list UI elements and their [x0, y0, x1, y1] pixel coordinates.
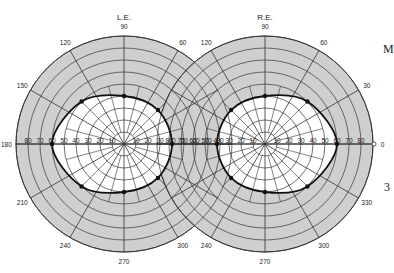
meridian-label: 90	[261, 23, 269, 30]
scale-label: 60	[48, 137, 56, 144]
scale-label: 30	[156, 137, 164, 144]
isopter-point	[229, 176, 233, 180]
scale-label: 80	[165, 137, 173, 144]
edge-text-fragment: 3	[384, 180, 390, 195]
scale-label: 20	[237, 137, 245, 144]
eye-label: R.E.	[257, 13, 273, 22]
isopter-point	[79, 184, 83, 188]
scale-label: 10	[249, 137, 257, 144]
meridian-label: 300	[318, 242, 329, 249]
isopter-point	[156, 176, 160, 180]
scale-label: 50	[321, 137, 329, 144]
isopter-point	[305, 99, 309, 103]
isopter-point	[122, 94, 126, 98]
zero-marker	[372, 142, 376, 146]
meridian-label: 30	[363, 82, 371, 89]
scale-label: 80	[357, 137, 365, 144]
edge-text-fragment: M	[383, 42, 394, 57]
scale-label: 30	[297, 137, 305, 144]
isopter-point	[229, 108, 233, 112]
meridian-label: 330	[361, 199, 372, 206]
scale-label: 30	[84, 137, 92, 144]
scale-label: 10	[273, 137, 281, 144]
meridian-label: 270	[119, 258, 130, 265]
scale-label: 20	[285, 137, 293, 144]
isopter-point	[156, 108, 160, 112]
meridian-label: 60	[320, 39, 328, 46]
scale-label: 10	[108, 137, 116, 144]
meridian-label: 300	[177, 242, 188, 249]
scale-label: 30	[225, 137, 233, 144]
scale-label: 50	[201, 137, 209, 144]
scale-label: 20	[96, 137, 104, 144]
scale-label: 60	[189, 137, 197, 144]
scale-label: 70	[36, 137, 44, 144]
isopter-point	[122, 190, 126, 194]
meridian-label: 120	[201, 39, 212, 46]
meridian-label: 0	[381, 141, 385, 148]
meridian-label: 120	[60, 39, 71, 46]
meridian-label: 240	[201, 242, 212, 249]
scale-label: 40	[309, 137, 317, 144]
eye-label: L.E.	[117, 13, 131, 22]
meridian-label: 180	[1, 141, 12, 148]
isopter-point	[305, 184, 309, 188]
meridian-label: 270	[260, 258, 271, 265]
meridian-label: 240	[60, 242, 71, 249]
scale-label: 70	[177, 137, 185, 144]
isopter-point	[263, 190, 267, 194]
scale-label: 40	[213, 137, 221, 144]
meridian-label: 210	[17, 199, 28, 206]
scale-label: 10	[132, 137, 140, 144]
scale-label: 70	[345, 137, 353, 144]
scale-label: 60	[333, 137, 341, 144]
scale-label: 80	[24, 137, 32, 144]
meridian-label: 90	[120, 23, 128, 30]
meridian-label: 150	[17, 82, 28, 89]
isopter-point	[79, 99, 83, 103]
meridian-label: 60	[179, 39, 187, 46]
scale-label: 40	[72, 137, 80, 144]
scale-label: 20	[144, 137, 152, 144]
isopter-point	[263, 94, 267, 98]
scale-label: 50	[60, 137, 68, 144]
